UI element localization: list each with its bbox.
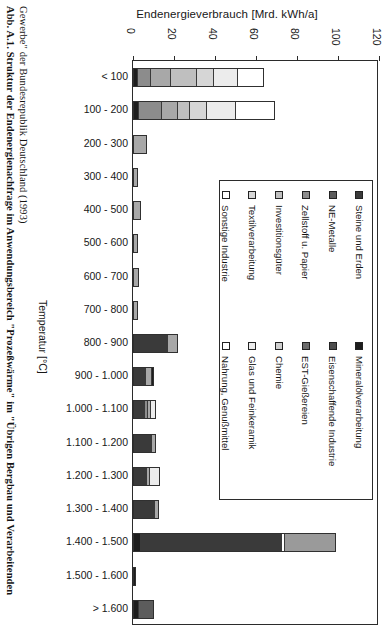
- x-axis-tick-label: 40: [207, 28, 219, 40]
- category-label: 1.100 - 1.200: [8, 436, 128, 448]
- bar-segment: [134, 435, 152, 452]
- category-label: 400 - 500: [8, 203, 128, 215]
- bar-segment: [134, 235, 137, 252]
- bar-segment: [207, 102, 236, 119]
- x-axis-tick-label: 80: [289, 28, 301, 40]
- x-axis-tick: [133, 56, 134, 61]
- legend-label: Mineralölverarbeitung: [354, 356, 365, 448]
- legend-row: TextilverarbeitungGlas und Feinkeramik: [247, 191, 258, 493]
- legend-item[interactable]: Steine und Erden: [354, 191, 365, 342]
- bar-row: [133, 101, 377, 120]
- bar-segment: [214, 69, 238, 86]
- bar-segment: [139, 601, 153, 618]
- x-axis-tick-label: 100: [330, 28, 342, 46]
- category-label: 1.200 - 1.300: [8, 469, 128, 481]
- bar-row: [133, 68, 377, 87]
- legend-item[interactable]: NE-Metalle: [327, 191, 338, 342]
- bar-segment: [152, 368, 153, 385]
- category-label: 1.400 - 1.500: [8, 535, 128, 547]
- legend-swatch-icon: [302, 191, 310, 199]
- bar-row: [133, 600, 377, 619]
- bar-segment: [151, 401, 155, 418]
- legend-label: Zellstoff u. Papier: [300, 205, 311, 279]
- stacked-bar: [133, 500, 159, 519]
- legend-row: Zellstoff u. PapierEST-Gießereien: [300, 191, 311, 493]
- bar-segment: [134, 368, 146, 385]
- category-label: > 1.600: [8, 602, 128, 614]
- legend-label: Investitionsgüter: [274, 205, 285, 275]
- chart-title: Endenergieverbrauch [Mrd. kWh/a]: [0, 8, 388, 20]
- legend-label: EST-Gießereien: [300, 356, 311, 425]
- bar-segment: [190, 102, 207, 119]
- bar-segment: [171, 69, 197, 86]
- legend-item[interactable]: Nahrung, Genußmittel: [220, 342, 231, 493]
- category-label: 1.000 - 1.100: [8, 402, 128, 414]
- stacked-bar: [133, 467, 160, 486]
- legend-item[interactable]: Eisenschaffende Industrie: [327, 342, 338, 493]
- legend-item[interactable]: Chemie: [274, 342, 285, 493]
- stacked-bar: [133, 201, 141, 220]
- stacked-bar: [133, 268, 139, 287]
- legend-swatch-icon: [222, 342, 230, 350]
- bar-segment: [139, 102, 161, 119]
- bar-row: [133, 567, 377, 586]
- x-axis-tick: [297, 56, 298, 61]
- bar-segment: [162, 102, 178, 119]
- stacked-bar: [133, 301, 138, 320]
- stacked-bar: [133, 334, 178, 353]
- bar-segment: [138, 69, 151, 86]
- legend-item[interactable]: Sonstige Industrie: [220, 191, 231, 342]
- legend-label: Glas und Feinkeramik: [247, 356, 258, 449]
- bar-segment: [134, 136, 146, 153]
- stacked-bar: [133, 168, 138, 187]
- bar-segment: [155, 501, 158, 518]
- bar-segment: [134, 534, 141, 551]
- legend-item[interactable]: Zellstoff u. Papier: [300, 191, 311, 342]
- bar-segment: [134, 202, 140, 219]
- stacked-bar: [133, 101, 275, 120]
- bar-segment: [134, 568, 135, 585]
- legend-swatch-icon: [222, 191, 230, 199]
- bar-segment: [150, 468, 159, 485]
- legend-item[interactable]: Textilverarbeitung: [247, 191, 258, 342]
- bar-row: [133, 135, 377, 154]
- bar-segment: [134, 501, 155, 518]
- bar-row: [133, 533, 377, 552]
- legend-row: InvestitionsgüterChemie: [274, 191, 285, 493]
- x-axis-tick-label: 0: [125, 28, 137, 34]
- category-label: 100 - 200: [8, 103, 128, 115]
- legend-label: Sonstige Industrie: [220, 205, 231, 282]
- bar-segment: [134, 169, 137, 186]
- category-label: 1.500 - 1.600: [8, 569, 128, 581]
- legend-label: Eisenschaffende Industrie: [327, 356, 338, 466]
- x-axis-tick: [256, 56, 257, 61]
- category-label: 1.300 - 1.400: [8, 502, 128, 514]
- bar-segment: [134, 302, 137, 319]
- legend-item[interactable]: Mineralölverarbeitung: [354, 342, 365, 493]
- legend-label: Nahrung, Genußmittel: [220, 356, 231, 450]
- bar-segment: [285, 534, 335, 551]
- x-axis-tick-label: 120: [371, 28, 383, 46]
- bar-segment: [168, 335, 177, 352]
- bar-segment: [134, 269, 138, 286]
- stacked-bar: [133, 367, 154, 386]
- legend-item[interactable]: Investitionsgüter: [274, 191, 285, 342]
- category-label: 700 - 800: [8, 303, 128, 315]
- stacked-bar: [133, 533, 336, 552]
- legend-item[interactable]: Glas und Feinkeramik: [247, 342, 258, 493]
- legend-item[interactable]: EST-Gießereien: [300, 342, 311, 493]
- legend-row: Sonstige IndustrieNahrung, Genußmittel: [220, 191, 231, 493]
- x-axis-tick: [338, 56, 339, 61]
- stacked-bar: [133, 434, 156, 453]
- x-axis-tick: [379, 56, 380, 61]
- category-label: 300 - 400: [8, 170, 128, 182]
- stacked-bar: [133, 600, 154, 619]
- legend-swatch-icon: [329, 342, 337, 350]
- stacked-bar: [133, 400, 156, 419]
- x-axis-tick: [215, 56, 216, 61]
- bar-segment: [236, 102, 274, 119]
- legend-swatch-icon: [275, 342, 283, 350]
- x-axis-tick-label: 20: [166, 28, 178, 40]
- legend-swatch-icon: [248, 191, 256, 199]
- legend-label: Textilverarbeitung: [247, 205, 258, 280]
